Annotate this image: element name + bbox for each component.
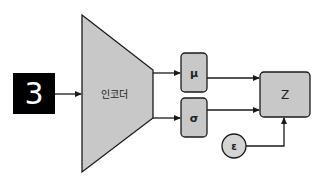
input-digit: 3 <box>24 76 43 111</box>
vae-encoder-diagram: 3 인코더 μ σ Z ε <box>0 0 321 179</box>
z-node: Z <box>260 72 310 117</box>
encoder-label: 인코더 <box>101 89 128 100</box>
edge-epsilon-z <box>246 118 284 146</box>
mu-label: μ <box>190 67 198 80</box>
epsilon-node: ε <box>222 134 246 158</box>
mu-node: μ <box>181 53 207 92</box>
encoder-node: 인코더 <box>82 15 153 172</box>
z-label: Z <box>281 88 289 102</box>
epsilon-label: ε <box>231 141 237 152</box>
sigma-node: σ <box>181 98 207 137</box>
input-image: 3 <box>13 73 55 114</box>
sigma-label: σ <box>190 112 199 125</box>
